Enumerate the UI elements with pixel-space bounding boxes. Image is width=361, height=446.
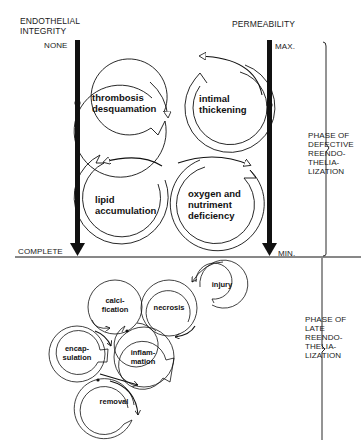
none-label: NONE: [44, 41, 68, 50]
node-oxygen-nutriment-deficiency: oxygen and nutriment deficiency: [188, 188, 258, 221]
node-intimal-thickening: intimal thickening: [199, 93, 259, 115]
node-calcification: calci- fication: [98, 296, 132, 314]
permeability-axis: [262, 40, 277, 256]
node-thrombosis-desquamation: thrombosis desquamation: [92, 92, 162, 114]
permeability-title: PERMEABILITY: [232, 19, 295, 29]
node-encapsulation: encap- sulation: [57, 344, 97, 362]
node-injury: injury: [207, 280, 237, 289]
max-label: MAX.: [275, 42, 295, 51]
node-inflammation: inflam- mation: [125, 348, 161, 366]
phase-defective-label: PHASE OF DEFECTIVE REENDO- THELIA- LIZAT…: [308, 131, 354, 176]
node-removal: removal: [94, 397, 134, 406]
min-label: MIN.: [278, 249, 295, 258]
complete-label: COMPLETE: [18, 247, 63, 256]
diagram-canvas: [0, 0, 361, 446]
endothelial-integrity-title: ENDOTHELIAL INTEGRITY: [20, 16, 80, 36]
node-necrosis: necrosis: [150, 303, 188, 312]
cycle-removal: [74, 378, 138, 438]
phase-late-label: PHASE OF LATE REENDO- THELIA- LIZATION: [305, 315, 346, 360]
cycle-thrombosis: [74, 59, 168, 177]
node-lipid-accumulation: lipid accumulation: [95, 194, 165, 216]
